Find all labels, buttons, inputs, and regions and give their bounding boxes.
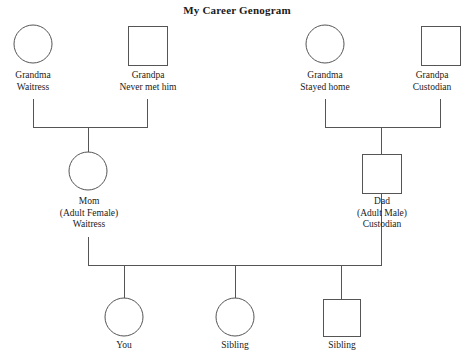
label-line: Custodian <box>390 82 474 94</box>
label-line: Sibling <box>205 340 265 352</box>
label-you: You <box>94 340 154 352</box>
node-sibling-female[interactable] <box>216 298 254 336</box>
union-line-maternal <box>34 99 148 128</box>
node-sibling-male[interactable] <box>324 300 361 337</box>
label-maternal-grandpa: Grandpa Never met him <box>93 70 203 93</box>
label-line: Never met him <box>93 82 203 94</box>
label-paternal-grandma: Grandma Stayed home <box>272 70 378 93</box>
node-maternal-grandpa[interactable] <box>129 27 168 66</box>
label-line: (Adult Female) <box>29 208 149 220</box>
label-dad: Dad (Adult Male) Custodian <box>329 196 435 231</box>
label-paternal-grandpa: Grandpa Custodian <box>390 70 474 93</box>
node-paternal-grandma[interactable] <box>306 25 344 63</box>
label-line: Grandpa <box>390 70 474 82</box>
label-line: Waitress <box>0 82 66 94</box>
label-line: You <box>94 340 154 352</box>
label-line: Waitress <box>29 219 149 231</box>
label-line: Mom <box>29 196 149 208</box>
label-line: Custodian <box>329 219 435 231</box>
label-line: Sibling <box>312 340 372 352</box>
node-maternal-grandma[interactable] <box>14 25 52 63</box>
label-line: Grandma <box>272 70 378 82</box>
label-line: Grandma <box>0 70 66 82</box>
label-line: Stayed home <box>272 82 378 94</box>
label-sibling-male: Sibling <box>312 340 372 352</box>
label-line: (Adult Male) <box>329 208 435 220</box>
genogram-canvas <box>0 0 474 359</box>
label-line: Grandpa <box>93 70 203 82</box>
union-line-paternal <box>326 99 441 128</box>
node-you[interactable] <box>105 298 143 336</box>
label-maternal-grandma: Grandma Waitress <box>0 70 66 93</box>
label-mom: Mom (Adult Female) Waitress <box>29 196 149 231</box>
genogram-page: My Career Genogram Grandma Waitress Gra <box>0 0 474 359</box>
node-dad[interactable] <box>363 155 402 194</box>
node-mom[interactable] <box>69 152 107 190</box>
node-paternal-grandpa[interactable] <box>422 27 461 66</box>
label-sibling-female: Sibling <box>205 340 265 352</box>
label-line: Dad <box>329 196 435 208</box>
